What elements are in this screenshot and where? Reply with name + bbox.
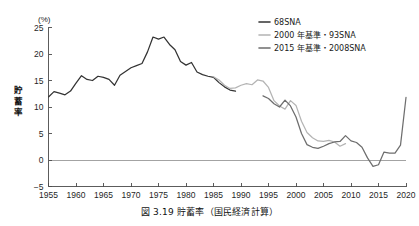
figure-caption: 図 3.19 貯蓄率（国民経済計算） [0, 205, 419, 218]
y-axis-title-char: 率 [14, 107, 23, 117]
y-axis-title: 貯蓄率 [14, 85, 23, 117]
series-line [214, 77, 346, 146]
x-tick-label: 1990 [232, 190, 251, 200]
savings-rate-line-chart: 2520151050−5 195519601965197019751980198… [0, 0, 419, 205]
x-axis-ticks: 1955196019651970197519801985199019952000… [39, 183, 416, 200]
y-tick-label: 25 [34, 23, 44, 33]
x-tick-label: 2020 [397, 190, 416, 200]
x-tick-label: 1995 [259, 190, 278, 200]
chart-legend: 68SNA2000 年基準・93SNA2015 年基準・2008SNA [259, 18, 366, 53]
y-tick-label: 5 [39, 129, 44, 139]
data-series-group [49, 37, 407, 166]
y-tick-label: 0 [39, 155, 44, 165]
x-tick-label: 2005 [314, 190, 333, 200]
legend-label: 2015 年基準・2008SNA [274, 43, 366, 53]
y-tick-label: 15 [34, 76, 44, 86]
legend-label: 2000 年基準・93SNA [274, 30, 356, 40]
x-tick-label: 2010 [342, 190, 361, 200]
y-tick-label: 20 [34, 49, 44, 59]
x-tick-label: 1985 [204, 190, 223, 200]
x-tick-label: 1965 [94, 190, 113, 200]
x-tick-label: 1955 [39, 190, 58, 200]
series-line [263, 96, 406, 166]
legend-label: 68SNA [274, 18, 301, 27]
x-tick-label: 2000 [287, 190, 306, 200]
y-axis-unit-label: (%) [38, 15, 51, 24]
y-axis-ticks: 2520151050−5 [34, 23, 52, 192]
x-tick-label: 1980 [177, 190, 196, 200]
x-tick-label: 2015 [369, 190, 388, 200]
x-tick-label: 1970 [122, 190, 141, 200]
series-line [49, 37, 236, 97]
y-axis-title-char: 貯 [14, 85, 23, 95]
y-tick-label: 10 [34, 102, 44, 112]
figure-container: 2520151050−5 195519601965197019751980198… [0, 0, 419, 226]
x-tick-label: 1960 [67, 190, 86, 200]
y-axis-title-char: 蓄 [14, 96, 23, 106]
x-tick-label: 1975 [149, 190, 168, 200]
